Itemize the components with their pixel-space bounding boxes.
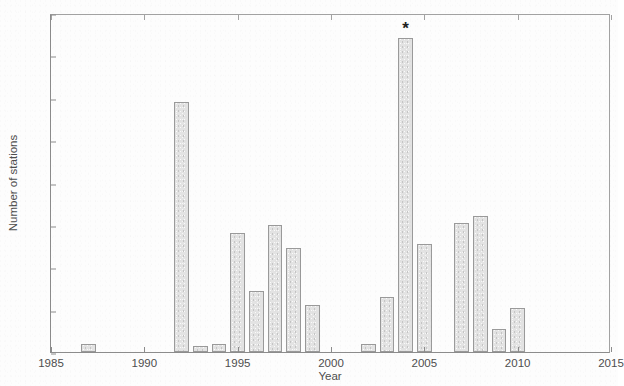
x-tick-mark-top (518, 15, 519, 20)
bar (417, 244, 432, 352)
x-tick-label: 1995 (225, 357, 251, 369)
y-tick-mark (51, 311, 56, 312)
x-tick-mark-top (238, 15, 239, 20)
x-tick-mark (331, 347, 332, 352)
y-tick-mark (51, 269, 56, 270)
x-tick-label: 2000 (318, 357, 344, 369)
bar (398, 38, 413, 352)
x-tick-label: 1990 (132, 357, 158, 369)
bar (249, 291, 264, 352)
y-tick-mark (51, 142, 56, 143)
bar (380, 297, 395, 352)
bar (361, 344, 376, 352)
bar (492, 329, 507, 352)
x-tick-mark (424, 347, 425, 352)
x-axis-title: Year (318, 370, 341, 382)
bar (305, 305, 320, 352)
y-tick-mark (51, 99, 56, 100)
x-tick-mark (518, 347, 519, 352)
bar (268, 225, 283, 352)
y-tick-mark (51, 57, 56, 58)
bar (454, 223, 469, 352)
y-tick-mark (51, 226, 56, 227)
x-tick-label: 1985 (38, 357, 64, 369)
x-tick-mark-top (611, 15, 612, 20)
bar (212, 344, 227, 352)
bar (174, 102, 189, 352)
x-tick-label: 2010 (505, 357, 531, 369)
x-tick-mark (51, 347, 52, 352)
x-tick-mark (238, 347, 239, 352)
bar (473, 216, 488, 352)
y-axis-title: Number of stations (7, 135, 19, 232)
x-tick-mark-top (51, 15, 52, 20)
x-tick-mark-top (424, 15, 425, 20)
asterisk-annotation: * (402, 20, 409, 37)
x-tick-mark (144, 347, 145, 352)
x-tick-mark (611, 347, 612, 352)
x-tick-mark-top (331, 15, 332, 20)
x-tick-label: 2005 (412, 357, 438, 369)
bar (230, 233, 245, 352)
bar (193, 346, 208, 352)
x-tick-label: 2015 (598, 357, 624, 369)
y-tick-mark (51, 184, 56, 185)
plot-area: 1985199019952000200520102015 * (50, 14, 610, 353)
bar (81, 344, 96, 352)
bar (510, 308, 525, 352)
x-tick-mark-top (144, 15, 145, 20)
y-tick-mark (51, 354, 56, 355)
y-axis-title-wrapper: Number of stations (11, 0, 27, 386)
bar (286, 248, 301, 352)
y-tick-mark (51, 15, 56, 16)
